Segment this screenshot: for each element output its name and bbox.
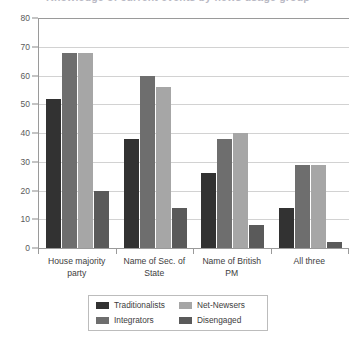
bar — [311, 165, 326, 248]
x-category-label: House majorityparty — [38, 256, 116, 279]
bar — [249, 225, 264, 248]
x-category-label-line: Name of British — [193, 256, 271, 268]
bar-chart: Knowledge of current events by news usag… — [0, 0, 356, 342]
bar-group — [201, 18, 265, 248]
legend-swatch-icon — [179, 317, 192, 324]
x-category-label-line: House majority — [38, 256, 116, 268]
bar-group — [278, 18, 342, 248]
x-tick-mark — [193, 249, 194, 254]
y-tick-label: 50 — [0, 100, 30, 109]
x-tick-mark — [38, 249, 39, 254]
bar — [201, 173, 216, 248]
bar — [233, 133, 248, 248]
x-category-label-line: PM — [193, 268, 271, 280]
x-category-label-line: Name of Sec. of — [116, 256, 194, 268]
chart-title-clipped: Knowledge of current events by news usag… — [0, 0, 356, 5]
bar — [62, 53, 77, 249]
y-tick-label: 0 — [0, 244, 30, 253]
bar — [156, 87, 171, 248]
bar — [279, 208, 294, 248]
legend-entry: Traditionalists — [96, 301, 179, 309]
chart-legend: TraditionalistsNet-NewsersIntegratorsDis… — [88, 295, 268, 331]
legend-label: Integrators — [114, 316, 154, 324]
x-tick-mark — [348, 249, 349, 254]
legend-swatch-icon — [96, 302, 109, 309]
y-tick-label: 80 — [0, 14, 30, 23]
legend-entry: Integrators — [96, 316, 179, 324]
bar — [295, 165, 310, 248]
x-tick-mark — [116, 249, 117, 254]
legend-swatch-icon — [179, 302, 192, 309]
bar-group — [46, 18, 110, 248]
x-category-label: Name of Sec. ofState — [116, 256, 194, 279]
y-tick-label: 20 — [0, 186, 30, 195]
x-tick-mark — [271, 249, 272, 254]
x-category-label: All three — [271, 256, 349, 268]
y-tick-label: 60 — [0, 71, 30, 80]
legend-label: Disengaged — [197, 316, 241, 324]
y-axis-labels: 01020304050607080 — [0, 18, 30, 248]
plot-area — [38, 18, 349, 249]
bar — [94, 191, 109, 249]
bar — [140, 76, 155, 249]
bar-group — [123, 18, 187, 248]
x-category-label-line: State — [116, 268, 194, 280]
x-category-label-line: party — [38, 268, 116, 280]
plot-wrapper: 01020304050607080 House majoritypartyNam… — [0, 18, 356, 258]
bar — [46, 99, 61, 249]
bar — [124, 139, 139, 248]
bar — [217, 139, 232, 248]
bars-layer — [39, 18, 349, 248]
bar — [78, 53, 93, 249]
y-tick-label: 10 — [0, 215, 30, 224]
legend-swatch-icon — [96, 317, 109, 324]
y-tick-label: 70 — [0, 43, 30, 52]
x-axis-category-labels: House majoritypartyName of Sec. ofStateN… — [38, 256, 349, 290]
legend-entry: Net-Newsers — [179, 301, 262, 309]
y-tick-label: 40 — [0, 129, 30, 138]
y-tick-label: 30 — [0, 158, 30, 167]
x-axis-tick-marks — [38, 249, 349, 254]
legend-label: Traditionalists — [114, 301, 165, 309]
x-category-label: Name of BritishPM — [193, 256, 271, 279]
bar — [172, 208, 187, 248]
legend-entry: Disengaged — [179, 316, 262, 324]
legend-label: Net-Newsers — [197, 301, 245, 309]
x-category-label-line: All three — [271, 256, 349, 268]
bar — [327, 242, 342, 248]
